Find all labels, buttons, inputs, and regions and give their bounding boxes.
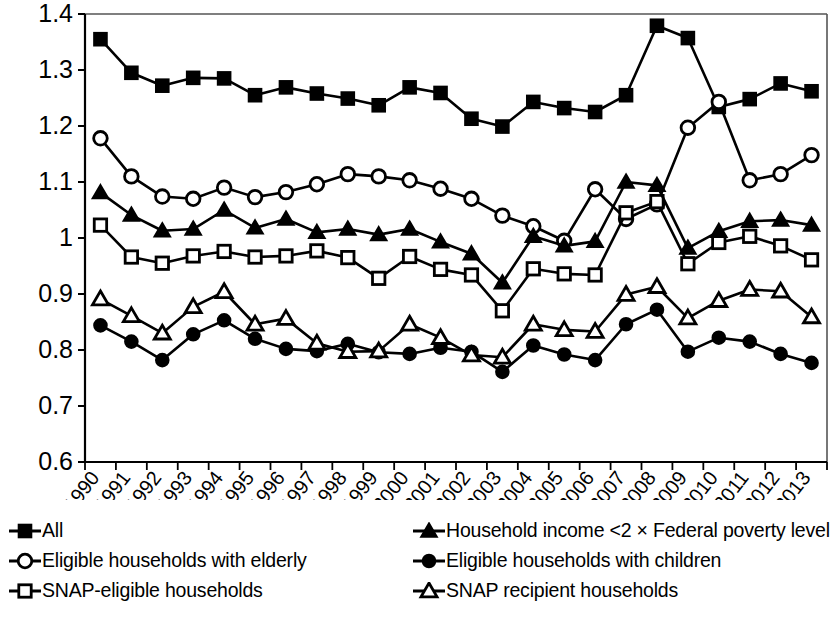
marker-filled-square [589,106,601,118]
marker-filled-square [19,525,31,537]
marker-open-square [682,258,694,270]
marker-filled-square [218,72,230,84]
marker-open-circle [125,170,139,184]
marker-filled-circle [156,354,168,366]
marker-filled-square [249,89,261,101]
marker-open-circle [588,182,602,196]
series-line [100,202,811,311]
marker-open-square [280,250,292,262]
marker-filled-square [527,96,539,108]
legend-item-right-0[interactable]: Household income <2 × Federal poverty le… [412,516,833,546]
series-line [100,287,811,358]
marker-open-circle [403,174,417,188]
marker-filled-square [403,81,415,93]
marker-filled-square [558,102,570,114]
marker-open-triangle [123,308,139,322]
legend-item-right-1[interactable]: Eligible households with children [412,546,833,576]
legend-marker-filled-circle [412,552,446,570]
y-tick-label: 0.7 [38,391,73,419]
marker-filled-circle [682,345,694,357]
marker-open-circle [805,148,819,162]
marker-filled-circle [423,555,435,567]
series-line [100,310,811,372]
marker-open-circle [341,167,355,181]
marker-filled-triangle [680,241,695,254]
marker-filled-square [280,81,292,93]
series-line [100,182,811,283]
marker-filled-circle [280,343,292,355]
marker-open-triangle [742,282,758,296]
marker-open-square [774,240,786,252]
marker-filled-circle [527,339,539,351]
legend-marker-open-square [8,582,42,600]
marker-open-circle [372,170,386,184]
marker-filled-square [373,99,385,111]
marker-open-triangle [216,284,232,298]
marker-filled-triangle [278,212,293,225]
marker-filled-circle [187,328,199,340]
marker-filled-triangle [618,175,633,188]
legend-item-right-2[interactable]: SNAP recipient households [412,576,833,606]
marker-filled-triangle [402,222,417,235]
legend-marker-filled-triangle [412,522,446,540]
legend-item-left-1[interactable]: Eligible households with elderly [8,546,408,576]
marker-filled-square [774,77,786,89]
marker-open-triangle [185,299,201,313]
y-tick-label: 1.3 [38,55,73,83]
marker-open-triangle [402,316,418,330]
marker-open-circle [496,209,510,223]
marker-open-square [589,269,601,281]
marker-filled-square [465,113,477,125]
marker-filled-circle [774,348,786,360]
marker-open-square [434,263,446,275]
marker-filled-square [805,85,817,97]
marker-open-square [218,245,230,257]
legend-item-label: SNAP recipient households [446,581,678,601]
legend-item-left-2[interactable]: SNAP-eligible households [8,576,408,606]
legend-item-label: Eligible households with children [446,551,721,571]
marker-open-square [156,257,168,269]
marker-open-square [19,585,31,597]
legend-item-left-0[interactable]: All [8,516,408,546]
line-chart-svg: 0.60.70.80.911.11.21.31.4199019911992199… [0,0,833,500]
marker-open-circle [743,174,757,188]
marker-filled-square [311,87,323,99]
series-0 [94,20,817,133]
chart-figure: 0.60.70.80.911.11.21.31.4199019911992199… [0,0,833,627]
marker-filled-circle [218,314,230,326]
legend-marker-open-triangle [412,582,446,600]
marker-open-circle [712,95,726,109]
marker-filled-circle [620,318,632,330]
marker-open-square [558,268,570,280]
y-tick-label: 0.8 [38,335,73,363]
marker-open-triangle [618,287,634,301]
marker-open-square [94,219,106,231]
legend-column-right: Household income <2 × Federal poverty le… [412,516,833,606]
marker-filled-square [682,32,694,44]
chart-legend: AllEligible households with elderlySNAP-… [0,516,833,627]
legend-marker-open-circle [8,552,42,570]
legend-marker-filled-square [8,522,42,540]
marker-filled-circle [651,303,663,315]
series-line [100,26,811,127]
marker-open-square [249,251,261,263]
plot-area: 0.60.70.80.911.11.21.31.4199019911992199… [0,0,833,500]
marker-filled-square [434,87,446,99]
marker-filled-square [342,92,354,104]
legend-column-left: AllEligible households with elderlySNAP-… [8,516,408,606]
marker-filled-circle [805,357,817,369]
marker-filled-triangle [93,185,108,198]
marker-filled-circle [744,335,756,347]
marker-open-square [496,305,508,317]
marker-open-circle [279,185,293,199]
marker-filled-square [156,79,168,91]
marker-open-square [713,236,725,248]
marker-filled-triangle [217,203,232,216]
y-tick-label: 1.2 [38,111,73,139]
marker-open-square [311,245,323,257]
marker-open-square [620,207,632,219]
marker-open-circle [217,181,231,195]
marker-filled-square [496,120,508,132]
y-tick-label: 1.4 [38,0,73,27]
marker-open-triangle [711,293,727,307]
